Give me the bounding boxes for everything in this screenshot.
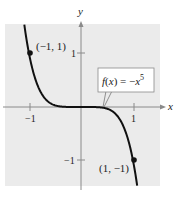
point-neg1-1 — [27, 50, 33, 56]
function-label: f(x) = −x5 — [102, 73, 144, 88]
x-tick-label-neg1: −1 — [25, 113, 36, 124]
y-axis-label: y — [77, 5, 83, 17]
point-label-1-neg1: (1, −1) — [99, 162, 129, 175]
function-graph: x y −1 1 1 −1 (−1, 1) (1, −1) f(x) = −x5 — [0, 0, 180, 198]
y-tick-label-1: 1 — [71, 48, 76, 59]
x-axis-label: x — [167, 100, 173, 112]
point-label-neg1-1: (−1, 1) — [36, 40, 66, 53]
x-axis-arrow-icon — [160, 105, 166, 110]
x-tick-label-1: 1 — [131, 113, 136, 124]
y-tick-label-neg1: −1 — [64, 155, 75, 166]
point-1-neg1 — [131, 157, 137, 163]
plot-svg: x y −1 1 1 −1 (−1, 1) (1, −1) f(x) = −x5 — [0, 0, 180, 198]
